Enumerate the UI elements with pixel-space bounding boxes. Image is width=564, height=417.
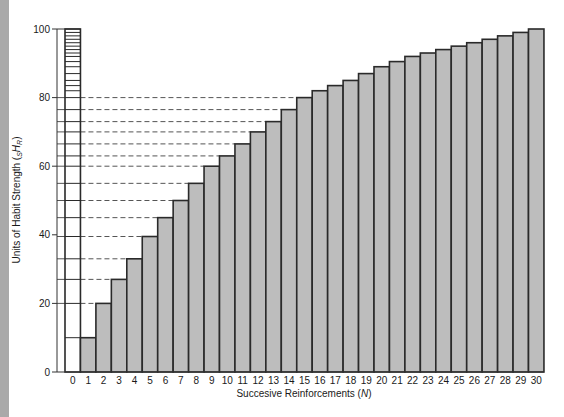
x-tick-label: 16 — [314, 375, 326, 386]
bar-n-13 — [266, 122, 281, 372]
x-tick-label: 28 — [500, 375, 512, 386]
x-tick-label: 30 — [531, 375, 543, 386]
bar-n-24 — [436, 50, 451, 372]
bar-n-3 — [111, 279, 126, 372]
bar-n-16 — [312, 91, 327, 372]
bar-n-5 — [142, 237, 157, 372]
y-tick-label: 100 — [33, 24, 50, 35]
y-tick-label: 60 — [39, 161, 51, 172]
bar-n-21 — [389, 62, 404, 372]
bar-n-30 — [529, 29, 544, 372]
x-tick-label: 13 — [268, 375, 280, 386]
x-tick-label: 24 — [438, 375, 450, 386]
bar-n-28 — [498, 36, 513, 372]
y-tick-label: 20 — [39, 298, 51, 309]
x-tick-label: 12 — [253, 375, 265, 386]
bar-n-23 — [420, 53, 435, 372]
y-axis-title: Units of Habit Strength (SHR) — [11, 136, 23, 263]
bar-n-29 — [513, 32, 528, 372]
x-tick-label: 15 — [299, 375, 311, 386]
bar-n-25 — [451, 46, 466, 372]
x-tick-label: 17 — [330, 375, 342, 386]
bar-n-11 — [235, 144, 250, 372]
x-tick-label: 10 — [222, 375, 234, 386]
bar-n-20 — [374, 67, 389, 372]
x-tick-label: 26 — [469, 375, 481, 386]
bar-n-8 — [189, 183, 204, 372]
x-tick-label: 14 — [283, 375, 295, 386]
y-tick-label: 80 — [39, 92, 51, 103]
x-tick-label: 18 — [345, 375, 357, 386]
bar-n-6 — [158, 218, 173, 372]
bar-n-14 — [281, 110, 296, 372]
x-axis-ticks: 0123456789101112131415161718192021222324… — [70, 375, 542, 386]
x-tick-label: 8 — [194, 375, 200, 386]
y-tick-label: 0 — [44, 367, 50, 378]
bar-n-19 — [359, 74, 374, 372]
bar-n-7 — [173, 201, 188, 373]
x-tick-label: 5 — [147, 375, 153, 386]
x-axis-title: Succesive Reinforcements (N) — [236, 388, 371, 399]
habit-strength-bar-chart: 020406080100 012345678910111213141516171… — [0, 0, 564, 417]
x-tick-label: 23 — [423, 375, 435, 386]
x-tick-label: 19 — [361, 375, 373, 386]
x-tick-label: 1 — [85, 375, 91, 386]
x-tick-label: 21 — [392, 375, 404, 386]
bar-n-10 — [220, 156, 235, 372]
bar-n-1 — [80, 338, 95, 372]
x-tick-label: 20 — [376, 375, 388, 386]
x-tick-label: 7 — [178, 375, 184, 386]
bar-n-27 — [482, 39, 497, 372]
bar-n-22 — [405, 56, 420, 372]
x-tick-label: 0 — [70, 375, 76, 386]
x-tick-label: 4 — [132, 375, 138, 386]
x-tick-label: 11 — [237, 375, 248, 386]
x-tick-label: 27 — [484, 375, 496, 386]
bar-n-4 — [127, 259, 142, 372]
y-tick-label: 40 — [39, 229, 51, 240]
x-tick-label: 2 — [101, 375, 107, 386]
x-tick-label: 25 — [453, 375, 465, 386]
bar-n-9 — [204, 166, 219, 372]
bar-n-12 — [250, 132, 265, 372]
bar-n-26 — [467, 43, 482, 372]
y-axis-ticks: 020406080100 — [33, 24, 57, 378]
x-tick-label: 29 — [515, 375, 527, 386]
bar-n-18 — [343, 80, 358, 372]
bar-n-15 — [297, 98, 312, 372]
x-tick-label: 9 — [209, 375, 215, 386]
x-tick-label: 22 — [407, 375, 419, 386]
x-tick-label: 3 — [116, 375, 122, 386]
bar-n-17 — [328, 86, 343, 372]
x-tick-label: 6 — [163, 375, 169, 386]
bar-n-2 — [96, 303, 111, 372]
